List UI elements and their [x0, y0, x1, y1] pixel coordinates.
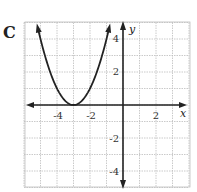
- y-tick-neg4: -4: [109, 166, 119, 177]
- x-axis-label: x: [180, 107, 187, 120]
- x-axis-left-arrow-icon: [26, 102, 34, 108]
- x-tick-neg2: -2: [86, 110, 96, 121]
- x-tick-2: 2: [153, 110, 159, 121]
- y-tick-4: 4: [113, 33, 119, 44]
- y-axis-label: y: [128, 23, 136, 36]
- chart-plot: -4 -2 2 4 2 -2 -4 x y: [0, 0, 197, 192]
- y-tick-2: 2: [113, 66, 119, 77]
- y-tick-neg2: -2: [109, 133, 119, 144]
- x-tick-neg4: -4: [53, 110, 63, 121]
